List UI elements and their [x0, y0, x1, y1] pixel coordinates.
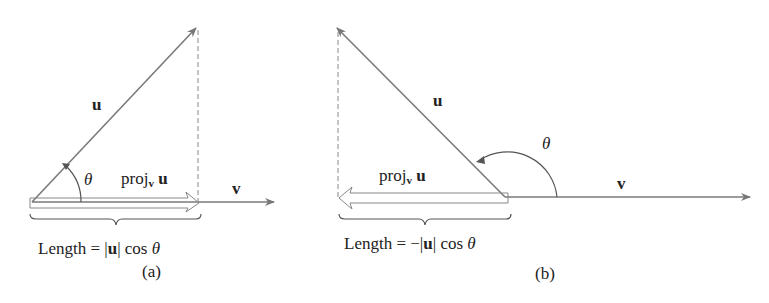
length-prefix: Length =: [344, 234, 410, 253]
length-theta: θ: [467, 234, 475, 253]
length-label-a: Length = |u| cos θ: [38, 240, 160, 257]
length-label-b: Length = −|u| cos θ: [344, 235, 476, 252]
label-proj-a: projv u: [121, 170, 168, 189]
label-u-a: u: [92, 96, 101, 113]
length-cos: cos: [121, 239, 152, 258]
label-theta-b: θ: [542, 135, 550, 152]
vector-u-a: [32, 28, 196, 202]
caption-a: (a): [142, 263, 161, 280]
panel-b: [337, 28, 750, 225]
proj-subscript: v: [148, 177, 154, 189]
label-theta-a: θ: [84, 171, 92, 188]
projection-arrow-b: [339, 187, 508, 209]
angle-arc-a: [66, 166, 81, 202]
length-u: u: [108, 239, 117, 258]
label-v-a: v: [232, 180, 241, 197]
brace-b: [339, 214, 511, 225]
length-sign: −: [410, 234, 420, 253]
label-v-b: v: [617, 175, 626, 192]
angle-arc-arrowhead-b: [476, 156, 485, 164]
caption-b: (b): [535, 265, 555, 282]
proj-subscript: v: [406, 174, 412, 186]
brace-a: [30, 214, 201, 225]
length-cos: cos: [436, 234, 467, 253]
length-theta: θ: [152, 239, 160, 258]
length-prefix: Length =: [38, 239, 104, 258]
proj-arg: u: [158, 169, 167, 188]
length-u: u: [423, 234, 432, 253]
proj-arg: u: [416, 166, 425, 185]
proj-text: proj: [121, 169, 148, 188]
angle-arc-b: [480, 152, 557, 197]
proj-text: proj: [379, 166, 406, 185]
label-u-b: u: [433, 92, 442, 109]
label-proj-b: projv u: [379, 167, 426, 186]
